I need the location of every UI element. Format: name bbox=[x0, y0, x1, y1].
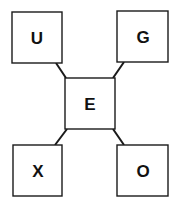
label-g: G bbox=[136, 28, 149, 47]
letter-diagram: U G E X O bbox=[0, 0, 180, 204]
label-u: U bbox=[31, 29, 43, 48]
node-top-right: G bbox=[117, 11, 168, 62]
label-x: X bbox=[32, 162, 44, 181]
label-o: O bbox=[136, 162, 149, 181]
node-bottom-left: X bbox=[13, 145, 62, 196]
link-u-e bbox=[56, 63, 66, 78]
link-o-e bbox=[113, 129, 124, 145]
node-top-left: U bbox=[12, 12, 62, 63]
node-center: E bbox=[65, 78, 115, 129]
link-x-e bbox=[55, 129, 67, 145]
link-g-e bbox=[113, 62, 124, 78]
node-bottom-right: O bbox=[117, 145, 168, 196]
label-e: E bbox=[84, 95, 95, 114]
